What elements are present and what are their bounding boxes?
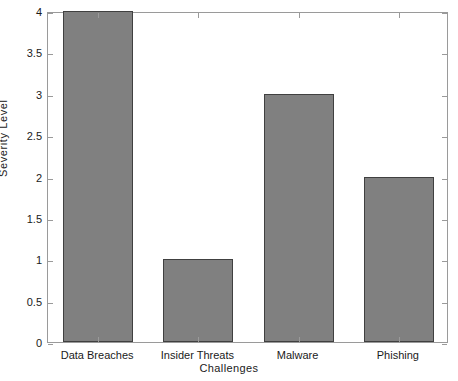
y-axis-tick-label: 0	[2, 337, 42, 349]
y-axis-tick-right	[442, 220, 447, 221]
y-axis-tick-right	[442, 137, 447, 138]
y-axis-tick-label: 3.5	[2, 47, 42, 59]
y-axis-tick-label: 1	[2, 254, 42, 266]
y-axis-tick	[48, 137, 53, 138]
bar	[264, 94, 334, 342]
x-axis-tick	[98, 337, 99, 342]
y-axis-tick	[48, 54, 53, 55]
x-axis-tick-top	[299, 13, 300, 18]
y-axis-tick-label: 1.5	[2, 213, 42, 225]
y-axis-tick-right	[442, 261, 447, 262]
y-axis-tick	[48, 13, 53, 14]
x-axis-tick-label: Malware	[277, 349, 319, 361]
y-axis-tick-right	[442, 13, 447, 14]
bar	[364, 177, 434, 343]
bar	[163, 259, 233, 342]
y-axis-title: Severity Level	[0, 100, 9, 178]
x-axis-tick-top	[98, 13, 99, 18]
y-axis-tick-right	[442, 96, 447, 97]
y-axis-tick	[48, 96, 53, 97]
y-axis-tick-right	[442, 344, 447, 345]
x-axis-tick-label: Phishing	[377, 349, 419, 361]
plot-area	[47, 12, 448, 343]
y-axis-tick	[48, 220, 53, 221]
y-axis-tick	[48, 303, 53, 304]
y-axis-tick-right	[442, 54, 447, 55]
y-axis-tick	[48, 344, 53, 345]
y-axis-tick-label: 4	[2, 6, 42, 18]
y-axis-tick-right	[442, 303, 447, 304]
x-axis-tick	[198, 337, 199, 342]
y-axis-tick	[48, 261, 53, 262]
bar	[63, 11, 133, 342]
x-axis-tick-label: Data Breaches	[61, 349, 134, 361]
y-axis-tick-label: 0.5	[2, 296, 42, 308]
x-axis-title: Challenges	[0, 362, 458, 374]
x-axis-tick-label: Insider Threats	[161, 349, 234, 361]
bar-chart-screenshot: 00.511.522.533.54 Severity Level Challen…	[0, 0, 458, 381]
x-axis-tick-top	[399, 13, 400, 18]
y-axis-tick	[48, 179, 53, 180]
x-axis-tick-top	[198, 13, 199, 18]
x-axis-tick	[299, 337, 300, 342]
top-clipped-text-artifact	[0, 0, 458, 5]
y-axis-tick-right	[442, 179, 447, 180]
x-axis-tick	[399, 337, 400, 342]
